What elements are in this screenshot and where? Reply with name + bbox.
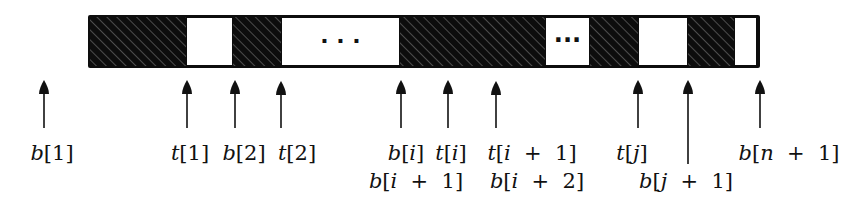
memory-bar: · · ···· [88, 15, 760, 68]
empty-segment [735, 18, 756, 65]
pointer-label: b[i] [388, 143, 425, 164]
pointer-label: t[i] [435, 143, 467, 164]
arrowhead-icon [230, 80, 240, 94]
arrowhead-icon [39, 80, 49, 94]
filled-segment [90, 17, 186, 66]
arrowhead-icon [633, 80, 643, 94]
arrowhead-icon [276, 81, 286, 95]
empty-segment [639, 18, 687, 65]
filled-segment [233, 17, 281, 66]
pointer-label: b[1] [30, 143, 73, 164]
filled-segment [400, 17, 545, 66]
pointer-label: t[2] [278, 143, 316, 164]
filled-segment [590, 17, 638, 66]
pointer-label: b[2] [222, 143, 265, 164]
arrowhead-icon [683, 80, 693, 94]
pointer-label: t[i + 1] [487, 143, 576, 164]
ellipsis-text: · · · [320, 28, 360, 53]
pointer-label: b[n + 1] [738, 143, 839, 164]
arrowhead-icon [396, 80, 406, 94]
pointer-label: b[i + 2] [490, 171, 584, 192]
filled-segment [688, 17, 734, 66]
empty-segment [187, 18, 232, 65]
pointer-label: t[j] [616, 143, 647, 164]
pointer-label: b[i + 1] [369, 171, 463, 192]
arrowhead-icon [491, 81, 501, 95]
ellipsis-text: ··· [554, 26, 581, 54]
arrowhead-icon [755, 80, 765, 94]
pointer-label: t[1] [171, 143, 209, 164]
pointer-label: b[j + 1] [639, 171, 733, 192]
arrowhead-icon [182, 80, 192, 94]
arrowhead-icon [443, 80, 453, 94]
